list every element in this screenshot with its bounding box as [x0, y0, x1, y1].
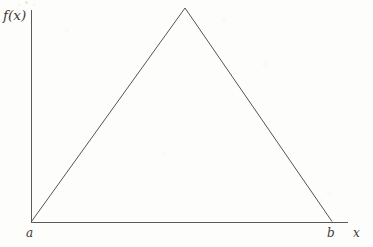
x-axis-label: x — [353, 227, 360, 239]
y-axis-label: f(x) — [3, 9, 26, 23]
x-tick-label-b: b — [327, 227, 335, 239]
function-curve — [32, 8, 333, 222]
figure-canvas: f(x) a b x — [0, 0, 373, 247]
plot-area — [0, 0, 373, 247]
x-tick-label-a: a — [26, 227, 33, 239]
